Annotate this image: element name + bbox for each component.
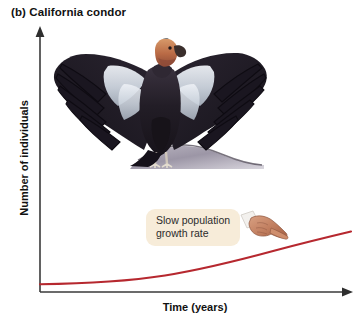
axes-and-curve [0,0,363,325]
pointing-hand-icon [240,209,292,247]
y-axis-label: Number of individuals [18,93,30,223]
x-axis-label: Time (years) [129,301,261,313]
annotation-callout: Slow population growth rate [146,209,240,246]
x-axis-arrow-icon [342,288,353,297]
y-axis-arrow-icon [36,26,45,37]
figure-california-condor: (b) California condor [0,0,363,325]
